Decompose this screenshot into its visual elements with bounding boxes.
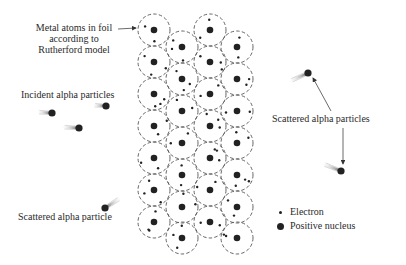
scattered-alpha-particle bbox=[287, 69, 311, 83]
label-metal-atoms: Metal atoms in foil according to Rutherf… bbox=[24, 22, 124, 55]
electron bbox=[170, 142, 172, 144]
atom bbox=[221, 127, 253, 159]
legend-item-electron: Electron bbox=[276, 205, 355, 219]
atom bbox=[221, 159, 253, 191]
incident-alpha-particle bbox=[61, 124, 83, 131]
label-metal-atoms-line-1: Metal atoms in foil bbox=[24, 22, 124, 33]
atom bbox=[166, 159, 198, 191]
electron bbox=[175, 70, 177, 72]
electron bbox=[227, 199, 229, 201]
atom bbox=[221, 63, 253, 95]
electron bbox=[196, 186, 198, 188]
electron-icon bbox=[279, 211, 282, 214]
electron bbox=[217, 119, 219, 121]
electron bbox=[166, 120, 168, 122]
nucleus bbox=[234, 204, 241, 211]
scattered-alpha-particle bbox=[101, 195, 123, 211]
nucleus bbox=[207, 27, 214, 34]
legend-label-nucleus: Positive nucleus bbox=[290, 220, 355, 231]
electron bbox=[247, 137, 249, 139]
nucleus bbox=[151, 123, 158, 130]
electron bbox=[189, 83, 191, 85]
nucleus bbox=[207, 91, 214, 98]
atom bbox=[166, 127, 198, 159]
label-metal-atoms-line-3: Rutherford model bbox=[24, 44, 124, 55]
label-scattered-alpha-particles: Scattered alpha particles bbox=[272, 113, 370, 124]
electron bbox=[199, 55, 201, 57]
nucleus bbox=[151, 187, 158, 194]
nucleus bbox=[179, 108, 186, 115]
nucleus bbox=[179, 172, 186, 179]
electron bbox=[154, 105, 156, 107]
electron bbox=[176, 247, 178, 249]
nucleus bbox=[151, 155, 158, 162]
electron bbox=[163, 98, 165, 100]
electron bbox=[143, 192, 145, 194]
electron bbox=[148, 180, 150, 182]
electron bbox=[183, 89, 185, 91]
nucleus bbox=[207, 155, 214, 162]
electron bbox=[218, 159, 220, 161]
electron bbox=[235, 185, 237, 187]
label-scattered-alpha-particle: Scattered alpha particle bbox=[18, 211, 112, 222]
atom bbox=[166, 191, 198, 223]
electron bbox=[245, 84, 247, 86]
electron bbox=[180, 184, 182, 186]
pointer-arrow bbox=[313, 78, 331, 111]
metal-atoms-foil bbox=[138, 14, 253, 254]
electron bbox=[244, 178, 246, 180]
atom bbox=[221, 95, 253, 127]
electron bbox=[233, 214, 235, 216]
electron bbox=[140, 162, 142, 164]
atom bbox=[194, 14, 226, 46]
nucleus bbox=[179, 76, 186, 83]
electron bbox=[153, 40, 155, 42]
nucleus bbox=[151, 27, 158, 34]
electron bbox=[237, 56, 239, 58]
electron bbox=[187, 132, 189, 134]
atom bbox=[138, 206, 170, 238]
electron bbox=[219, 126, 221, 128]
nucleus bbox=[207, 219, 214, 226]
nucleus bbox=[234, 108, 241, 115]
rutherford-scattering-diagram: Metal atoms in foil according to Rutherf… bbox=[0, 0, 406, 265]
electron bbox=[214, 181, 216, 183]
incident-alpha-particle bbox=[92, 102, 110, 109]
electron bbox=[199, 95, 201, 97]
electron bbox=[206, 113, 208, 115]
electron bbox=[248, 78, 250, 80]
nucleus bbox=[179, 235, 186, 242]
scattered-alpha-particle bbox=[320, 161, 344, 174]
electron bbox=[248, 180, 250, 182]
nucleus bbox=[207, 59, 214, 66]
atom bbox=[166, 31, 198, 63]
electron bbox=[200, 222, 202, 224]
electron bbox=[147, 228, 149, 230]
atom bbox=[138, 78, 170, 110]
electron bbox=[214, 148, 216, 150]
nucleus bbox=[207, 187, 214, 194]
nucleus bbox=[234, 235, 241, 242]
legend-label-electron: Electron bbox=[290, 206, 324, 217]
nucleus bbox=[234, 140, 241, 147]
atom bbox=[166, 95, 198, 127]
electron bbox=[221, 68, 223, 70]
nucleus bbox=[179, 204, 186, 211]
atom bbox=[221, 191, 253, 223]
electron bbox=[217, 84, 219, 86]
electron bbox=[157, 133, 159, 135]
nucleus bbox=[151, 91, 158, 98]
nucleus bbox=[207, 123, 214, 130]
electron bbox=[182, 59, 184, 61]
electron bbox=[181, 225, 183, 227]
electron bbox=[216, 149, 218, 151]
electron bbox=[172, 234, 174, 236]
electron bbox=[159, 103, 161, 105]
nucleus bbox=[179, 44, 186, 51]
nucleus bbox=[151, 219, 158, 226]
atom bbox=[221, 31, 253, 63]
atom bbox=[138, 110, 170, 142]
electron bbox=[182, 193, 184, 195]
electron bbox=[165, 67, 167, 69]
nucleus bbox=[151, 59, 158, 66]
